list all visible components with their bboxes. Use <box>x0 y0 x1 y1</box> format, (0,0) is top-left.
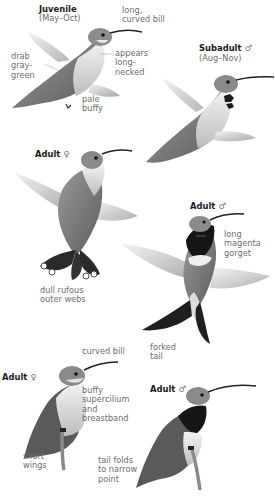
label-short-wings: short wings <box>23 452 47 471</box>
label-tail-folds-narrow-point: tail folds to narrow point <box>98 456 137 484</box>
male-symbol: ♂ <box>218 201 226 211</box>
adult-female-flying-hummingbird <box>14 150 138 280</box>
female-symbol: ♀ <box>30 372 36 382</box>
adult-male-flying-title: Adult ♂ <box>190 202 226 212</box>
adult-male-perched-title: Adult ♂ <box>150 385 186 395</box>
adult-female-flying-title: Adult ♀ <box>35 150 69 160</box>
label-dull-rufous-outer-webs: dull rufous outer webs <box>40 286 86 305</box>
subadult-male-hummingbird <box>146 75 274 163</box>
subadult-season: (Aug–Nov) <box>199 54 241 63</box>
adult-male-perched-hummingbird <box>136 385 256 490</box>
male-symbol: ♂ <box>178 384 186 394</box>
juvenile-season: (May–Oct) <box>39 14 81 23</box>
label-buffy-supercilium-breastband: buffy supercilium and breastband <box>82 386 129 424</box>
label-curved-bill: curved bill <box>82 347 125 356</box>
male-symbol: ♂ <box>244 43 252 53</box>
label-long-curved-bill: long, curved bill <box>122 6 165 25</box>
adult-female-perched-title: Adult ♀ <box>2 373 36 383</box>
label-forked-tail: forked tail <box>150 343 176 362</box>
label-drab-gray-green: drab gray- green <box>11 52 35 80</box>
female-symbol: ♀ <box>63 149 69 159</box>
label-long-magenta-gorget: long magenta gorget <box>224 230 261 258</box>
label-appears-long-necked: appears long- necked <box>115 49 148 77</box>
field-guide-plate: Juvenile (May–Oct) long, curved bill dra… <box>0 0 275 503</box>
label-pale-buffy: pale buffy <box>82 95 103 114</box>
